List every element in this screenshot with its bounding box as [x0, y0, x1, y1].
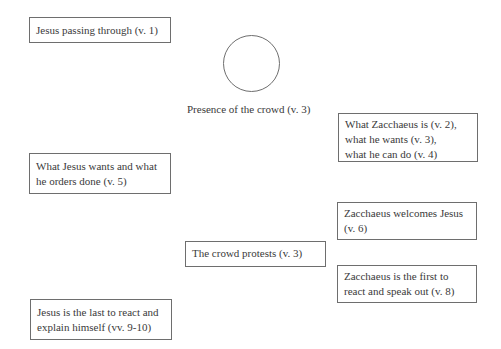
node-text: Jesus passing through (v. 1)	[36, 23, 164, 38]
node-text: Zacchaeus welcomes Jesus	[344, 206, 470, 221]
node-text: What Zacchaeus is (v. 2),	[345, 117, 471, 132]
crowd-presence-circle	[223, 35, 280, 92]
node-jesus-last: Jesus is the last to react and explain h…	[30, 299, 172, 340]
node-zacchaeus-first: Zacchaeus is the first to react and spea…	[337, 265, 477, 303]
node-jesus-passing: Jesus passing through (v. 1)	[29, 17, 171, 43]
node-crowd-protests: The crowd protests (v. 3)	[185, 241, 326, 267]
node-text: what he wants (v. 3),	[345, 132, 471, 147]
node-zacchaeus-is: What Zacchaeus is (v. 2), what he wants …	[338, 113, 478, 162]
node-text: explain himself (vv. 9-10)	[37, 320, 165, 335]
node-zacchaeus-welcomes: Zacchaeus welcomes Jesus (v. 6)	[337, 202, 477, 240]
node-text: Jesus is the last to react and	[37, 305, 165, 320]
node-text: The crowd protests (v. 3)	[192, 246, 319, 261]
node-text: he orders done (v. 5)	[36, 174, 164, 189]
node-text: react and speak out (v. 8)	[344, 284, 470, 299]
node-jesus-wants: What Jesus wants and what he orders done…	[29, 153, 171, 194]
node-text: what he can do (v. 4)	[345, 147, 471, 162]
node-text: Zacchaeus is the first to	[344, 269, 470, 284]
crowd-presence-label: Presence of the crowd (v. 3)	[187, 102, 310, 116]
node-text: What Jesus wants and what	[36, 159, 164, 174]
node-text: (v. 6)	[344, 221, 470, 236]
